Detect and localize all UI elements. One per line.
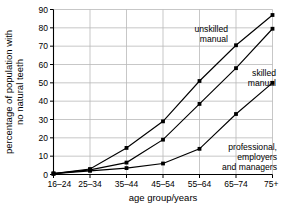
y-tick-label: 30 xyxy=(39,115,49,125)
data-point-marker xyxy=(52,172,56,176)
series-annotation-3: professional,employersand managers xyxy=(222,142,277,172)
x-tick-label: 35–44 xyxy=(115,179,139,189)
y-tick-label: 70 xyxy=(39,41,49,51)
y-tick-label: 20 xyxy=(39,133,49,143)
series-annotation-line: unskilled xyxy=(195,24,229,34)
series-annotation-line: manual xyxy=(248,78,276,88)
data-point-marker xyxy=(161,162,165,166)
y-axis-ticks: 0102030405060708090 xyxy=(39,5,54,180)
series-annotation-line: skilled xyxy=(252,68,276,78)
y-tick-label: 60 xyxy=(39,60,49,70)
data-point-marker xyxy=(125,146,129,150)
data-point-marker xyxy=(88,169,92,173)
data-point-marker xyxy=(198,79,202,83)
y-tick-label: 80 xyxy=(39,23,49,33)
data-point-marker xyxy=(198,102,202,106)
chart-container: 010203040506070809016–2425–3435–4445–545… xyxy=(0,0,282,217)
x-tick-label: 65–74 xyxy=(224,179,248,189)
data-point-marker xyxy=(234,66,238,70)
y-tick-label: 90 xyxy=(39,5,49,15)
x-tick-label: 16–24 xyxy=(48,179,72,189)
series-annotation-line: and managers xyxy=(222,162,277,172)
data-point-marker xyxy=(125,166,129,170)
series-annotation-2: skilledmanual xyxy=(248,68,276,88)
y-axis-title-line2: no natural teeth xyxy=(14,59,25,125)
y-axis-title: percentage of population withno natural … xyxy=(3,30,25,154)
x-tick-label: 55–64 xyxy=(188,179,212,189)
series-annotation-line: professional, xyxy=(228,142,277,152)
data-point-marker xyxy=(125,161,129,165)
y-tick-label: 0 xyxy=(43,170,48,180)
y-axis-title-line1: percentage of population with xyxy=(3,30,14,154)
data-point-marker xyxy=(198,147,202,151)
x-tick-label: 25–34 xyxy=(78,179,102,189)
x-tick-label: 45–54 xyxy=(151,179,175,189)
x-axis-title: age group/years xyxy=(129,192,198,203)
data-point-marker xyxy=(234,112,238,116)
series-annotation-line: employers xyxy=(237,152,277,162)
line-chart: 010203040506070809016–2425–3435–4445–545… xyxy=(0,0,282,217)
data-point-marker xyxy=(271,27,275,31)
y-tick-label: 50 xyxy=(39,78,49,88)
x-tick-label: 75+ xyxy=(264,179,278,189)
data-point-marker xyxy=(161,138,165,142)
y-tick-label: 40 xyxy=(39,96,49,106)
x-axis-ticks: 16–2425–3435–4445–5455–6465–7475+ xyxy=(48,175,279,190)
data-point-marker xyxy=(271,13,275,17)
data-point-marker xyxy=(234,43,238,47)
series-annotation-1: unskilledmanual xyxy=(195,24,229,44)
data-point-marker xyxy=(161,119,165,123)
series-annotation-line: manual xyxy=(200,34,228,44)
y-tick-label: 10 xyxy=(39,151,49,161)
